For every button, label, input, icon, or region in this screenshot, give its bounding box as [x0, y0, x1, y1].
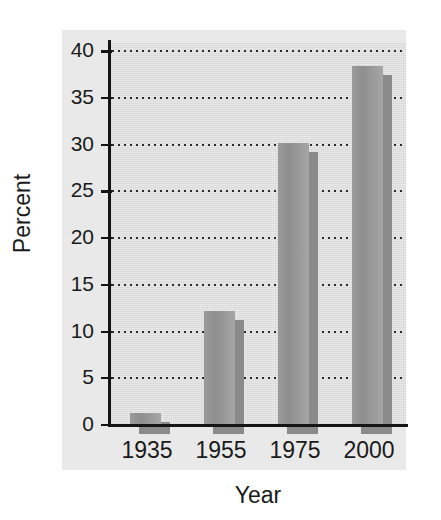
y-axis-tick	[101, 144, 112, 146]
y-axis-tick	[101, 50, 112, 52]
y-axis-title: Percent	[9, 154, 36, 274]
x-tick-label: 2000	[324, 437, 414, 464]
y-tick-label: 40	[44, 38, 94, 62]
y-tick-label: 15	[44, 272, 94, 296]
y-axis-tick	[101, 377, 112, 379]
y-tick-label: 0	[44, 412, 94, 436]
y-axis-tick	[101, 331, 112, 333]
x-axis-title: Year	[110, 482, 406, 509]
plot-area	[110, 42, 406, 425]
y-axis-tick	[101, 97, 112, 99]
bar	[352, 66, 383, 425]
y-tick-label: 5	[44, 365, 94, 389]
y-tick-label: 30	[44, 132, 94, 156]
chart-figure: 0510152025303540 1935195519752000 Percen…	[0, 0, 441, 520]
y-axis-tick	[101, 284, 112, 286]
y-axis-tick	[101, 190, 112, 192]
y-tick-label: 25	[44, 178, 94, 202]
x-axis-line	[108, 424, 408, 427]
gridline	[110, 50, 406, 52]
y-tick-label: 35	[44, 85, 94, 109]
y-axis-tick	[101, 424, 112, 426]
y-tick-label: 10	[44, 319, 94, 343]
y-tick-label: 20	[44, 225, 94, 249]
bar	[278, 143, 309, 425]
bar	[204, 311, 235, 425]
y-axis-tick	[101, 237, 112, 239]
